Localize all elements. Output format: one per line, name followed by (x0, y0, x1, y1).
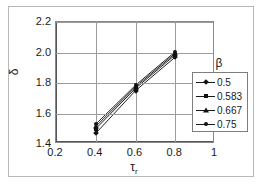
y-tick-label: 2.2 (36, 15, 51, 27)
x-axis-title-subscript: r (135, 167, 138, 176)
gridline-horizontal (56, 114, 213, 115)
y-tick-label: 1.8 (36, 76, 51, 88)
legend-item[interactable]: 0.5 (196, 75, 244, 89)
legend-item[interactable]: 0.583 (196, 89, 244, 103)
legend-item[interactable]: 0.75 (196, 117, 244, 131)
legend-marker-diamond-icon (196, 76, 215, 88)
legend-item-label: 0.75 (217, 119, 236, 130)
plot-area (55, 21, 214, 143)
x-axis-title: τr (130, 160, 137, 176)
legend-item-label: 0.583 (217, 91, 242, 102)
y-tick-label: 1.6 (36, 107, 51, 119)
legend-item-label: 0.5 (217, 77, 231, 88)
data-point-marker (94, 122, 98, 126)
chart-figure: 1.41.61.82.02.2 0.20.40.60.81 δ τr β 0.5… (0, 0, 264, 189)
y-axis-title: δ (7, 69, 21, 76)
series-layer (56, 22, 213, 142)
x-tick-label: 0.2 (47, 146, 62, 158)
legend-marker-triangle-icon (196, 104, 215, 116)
legend-marker-square-icon (196, 90, 215, 102)
legend-item-label: 0.667 (217, 105, 242, 116)
y-tick-label: 2.0 (36, 46, 51, 58)
legend-marker-circle-icon (196, 118, 215, 130)
legend-title: β (216, 56, 223, 70)
x-tick-label: 1 (211, 146, 217, 158)
data-point-marker (173, 50, 177, 54)
legend: 0.50.5830.6670.75 (192, 72, 248, 132)
y-axis-tick-labels: 1.41.61.82.02.2 (18, 21, 51, 143)
legend-item[interactable]: 0.667 (196, 103, 244, 117)
gridline-horizontal (56, 53, 213, 54)
x-tick-label: 0.8 (167, 146, 182, 158)
gridline-vertical (175, 22, 176, 142)
gridline-horizontal (56, 22, 213, 23)
x-tick-label: 0.6 (127, 146, 142, 158)
x-tick-label: 0.4 (87, 146, 102, 158)
gridline-vertical (136, 22, 137, 142)
data-point-marker (134, 83, 138, 87)
